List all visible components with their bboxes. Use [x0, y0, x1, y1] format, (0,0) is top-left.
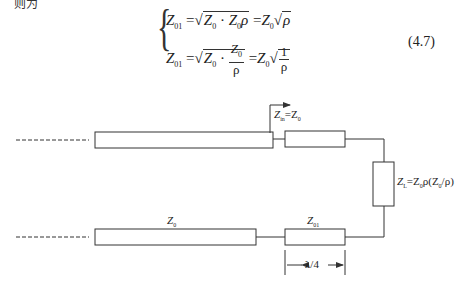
load-impedance-label: ZL=Z0ρ(Z0/ρ) — [397, 175, 454, 189]
top-main-line-rect — [95, 132, 273, 148]
transmission-line-diagram — [0, 0, 471, 293]
input-impedance-label: Zin=Z0 — [274, 108, 301, 122]
z01-label: Z01 — [307, 214, 319, 228]
quarter-wave-top-rect — [285, 131, 345, 147]
load-rect — [373, 162, 394, 206]
bottom-main-line-rect — [95, 229, 256, 245]
quarter-wave-label: λ/4 — [305, 258, 319, 270]
z0-label: Z0 — [167, 214, 176, 228]
quarter-wave-bottom-rect — [285, 229, 345, 245]
